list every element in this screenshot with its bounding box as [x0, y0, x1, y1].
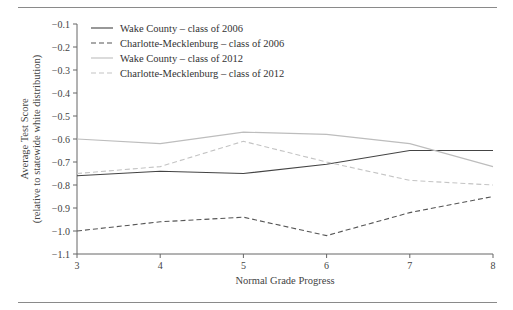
y-tick-label: −0.6 [52, 134, 70, 145]
legend-label-3: Charlotte-Mecklenburg – class of 2012 [120, 68, 284, 79]
axes: −0.1−0.2−0.3−0.4−0.5−0.6−0.7−0.8−0.9−1.0… [52, 19, 496, 272]
y-tick-label: −0.9 [52, 203, 70, 214]
x-tick-label: 4 [158, 260, 163, 271]
y-tick-label: −1.1 [52, 249, 70, 260]
y-tick-label: −0.2 [52, 42, 70, 53]
y-axis-title: Average Test Score [19, 98, 30, 179]
x-tick-label: 3 [75, 260, 80, 271]
x-tick-label: 8 [491, 260, 496, 271]
series-lines [77, 132, 493, 236]
y-axis-subtitle: (relative to statewide white distributio… [31, 54, 43, 223]
y-tick-label: −0.5 [52, 111, 70, 122]
series-line-1 [77, 197, 493, 236]
y-tick-label: −0.3 [52, 65, 70, 76]
series-line-2 [77, 132, 493, 167]
y-tick-label: −0.8 [52, 180, 70, 191]
y-tick-label: −0.1 [52, 19, 70, 30]
legend: Wake County – class of 2006Charlotte-Mec… [91, 23, 284, 79]
legend-label-1: Charlotte-Mecklenburg – class of 2006 [120, 38, 284, 49]
y-tick-label: −1.0 [52, 226, 70, 237]
x-axis-title: Normal Grade Progress [235, 275, 334, 286]
series-line-3 [77, 141, 493, 185]
legend-label-0: Wake County – class of 2006 [120, 23, 243, 34]
x-tick-label: 6 [324, 260, 329, 271]
line-chart: −0.1−0.2−0.3−0.4−0.5−0.6−0.7−0.8−0.9−1.0… [0, 0, 513, 310]
x-tick-label: 5 [241, 260, 246, 271]
legend-label-2: Wake County – class of 2012 [120, 53, 243, 64]
y-tick-label: −0.4 [52, 88, 70, 99]
series-line-0 [77, 151, 493, 176]
y-tick-label: −0.7 [52, 157, 70, 168]
x-tick-label: 7 [407, 260, 412, 271]
